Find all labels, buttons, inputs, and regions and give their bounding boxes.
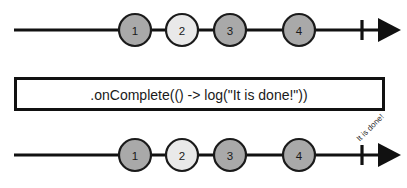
marble-label: 4 bbox=[296, 25, 303, 37]
operator-box[interactable]: .onComplete(() -> log("It is done!")) bbox=[16, 79, 384, 110]
marble-item[interactable]: 4 bbox=[283, 14, 315, 46]
marble-label: 3 bbox=[227, 25, 233, 37]
source-timeline: 1 2 3 4 bbox=[14, 14, 401, 46]
marble-item[interactable]: 4 bbox=[283, 139, 315, 171]
arrow-head-icon bbox=[378, 18, 401, 42]
marble-label: 4 bbox=[296, 150, 303, 162]
marble-item[interactable]: 2 bbox=[166, 14, 198, 46]
marble-label: 1 bbox=[132, 25, 138, 37]
marble-item[interactable]: 1 bbox=[119, 139, 151, 171]
marble-item[interactable]: 3 bbox=[214, 14, 246, 46]
marble-item[interactable]: 1 bbox=[119, 14, 151, 46]
result-timeline: 1 2 3 4 It is done! bbox=[14, 112, 401, 171]
marble-item[interactable]: 3 bbox=[214, 139, 246, 171]
marble-label: 2 bbox=[179, 25, 185, 37]
arrow-head-icon bbox=[378, 143, 401, 167]
operator-box-label: .onComplete(() -> log("It is done!")) bbox=[90, 87, 307, 103]
marble-label: 3 bbox=[227, 150, 233, 162]
marble-label: 2 bbox=[179, 150, 185, 162]
marble-item[interactable]: 2 bbox=[166, 139, 198, 171]
marble-diagram: 1 2 3 4 .onComplete(() -> log("It is don… bbox=[0, 0, 407, 188]
completion-note-label: It is done! bbox=[355, 112, 386, 143]
marble-label: 1 bbox=[132, 150, 138, 162]
